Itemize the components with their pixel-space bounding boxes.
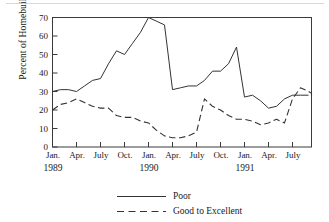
series-line-poor [53, 18, 309, 109]
axes-frame [53, 18, 312, 148]
legend-label-poor: Poor [173, 191, 191, 201]
x-year-label-1990: 1990 [129, 163, 169, 173]
y-tick-marks [53, 18, 58, 148]
series-line-good-to-excellent [53, 88, 312, 138]
x-tick-marks [53, 142, 293, 147]
plot-area [0, 0, 329, 222]
legend-label-good-to-excellent: Good to Excellent [173, 206, 242, 216]
x-year-label-1991: 1991 [225, 163, 265, 173]
chart-figure: Percent of Homebuilders 70 60 50 40 30 2… [0, 0, 329, 222]
x-year-label-1989: 1989 [33, 163, 73, 173]
x-tick-label-10: July [278, 150, 308, 160]
